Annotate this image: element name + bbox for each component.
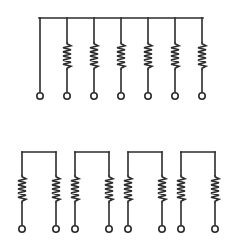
resistor-symbol (117, 42, 125, 70)
resistor-symbol (144, 42, 152, 70)
pin-terminal[interactable] (53, 226, 59, 232)
pin-terminal[interactable] (64, 93, 70, 99)
resistor-symbol (90, 42, 98, 70)
resistor-symbol (18, 175, 26, 203)
resistor-symbol (211, 175, 219, 203)
resistor-symbol (171, 42, 179, 70)
pin-terminal[interactable] (72, 226, 78, 232)
pin-terminal[interactable] (145, 93, 151, 99)
resistor-symbol (105, 175, 113, 203)
pin-terminal[interactable] (212, 226, 218, 232)
resistor-symbol (63, 42, 71, 70)
pin-terminal[interactable] (19, 226, 25, 232)
resistor-symbol (177, 175, 185, 203)
resistor-symbol (52, 175, 60, 203)
resistor-symbol (198, 42, 206, 70)
bussed-resistor-network (37, 18, 206, 99)
pin-terminal[interactable] (199, 93, 205, 99)
pin-terminal[interactable] (37, 93, 43, 99)
resistor-network-diagram (0, 0, 230, 246)
isolated-resistor-network (18, 152, 219, 232)
pin-terminal[interactable] (118, 93, 124, 99)
resistor-symbol (158, 175, 166, 203)
pin-terminal[interactable] (178, 226, 184, 232)
pin-terminal[interactable] (159, 226, 165, 232)
pin-terminal[interactable] (91, 93, 97, 99)
pin-terminal[interactable] (125, 226, 131, 232)
resistor-symbol (71, 175, 79, 203)
resistor-symbol (124, 175, 132, 203)
pin-terminal[interactable] (106, 226, 112, 232)
pin-terminal[interactable] (172, 93, 178, 99)
schematic-canvas (0, 0, 230, 246)
